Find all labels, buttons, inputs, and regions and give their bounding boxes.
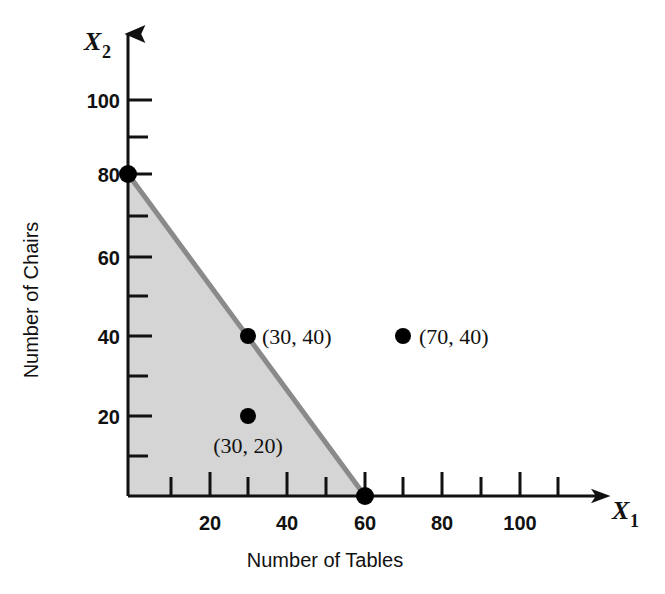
y-tick-label-20: 20	[98, 406, 120, 428]
y-axis-variable-label: X 2	[83, 27, 111, 62]
data-point-30-40	[240, 328, 256, 344]
data-point-vertex-0-80	[119, 165, 137, 183]
y-axis-variable-letter: X	[83, 27, 102, 56]
chart-container: 100 80 60 40 20 20 40 60 80 100 (30, 40)…	[0, 0, 665, 594]
annotation-70-40: (70, 40)	[419, 324, 489, 349]
y-axis-title: Number of Chairs	[20, 222, 42, 379]
x-axis-title: Number of Tables	[247, 549, 403, 571]
x-tick-label-80: 80	[431, 512, 453, 534]
annotation-30-40: (30, 40)	[262, 324, 332, 349]
x-axis-variable-letter: X	[611, 496, 630, 525]
data-point-70-40	[395, 328, 411, 344]
x-tick-label-40: 40	[276, 512, 298, 534]
y-tick-label-80: 80	[98, 164, 120, 186]
y-tick-label-60: 60	[98, 247, 120, 269]
data-point-vertex-60-0	[356, 487, 374, 505]
data-point-30-20	[240, 408, 256, 424]
y-tick-label-100: 100	[87, 90, 120, 112]
linear-programming-plot: 100 80 60 40 20 20 40 60 80 100 (30, 40)…	[0, 0, 665, 594]
y-axis-variable-subscript: 2	[102, 42, 111, 62]
x-tick-label-100: 100	[503, 512, 536, 534]
y-tick-label-40: 40	[98, 326, 120, 348]
x-tick-label-60: 60	[354, 512, 376, 534]
x-tick-label-20: 20	[199, 512, 221, 534]
x-axis-variable-subscript: 1	[630, 511, 639, 531]
annotation-30-20: (30, 20)	[213, 433, 283, 458]
x-axis-variable-label: X 1	[611, 496, 639, 531]
